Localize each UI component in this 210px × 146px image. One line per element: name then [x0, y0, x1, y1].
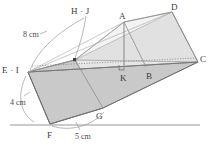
vertex-label-k: K [120, 74, 127, 83]
vertex-label-hj: H · J [71, 7, 90, 16]
leader-5cm [76, 122, 80, 130]
face-bottom-front [28, 62, 198, 124]
vertex-label-b: B [146, 72, 152, 81]
point-HJ-marker [73, 58, 76, 61]
figure-svg [0, 0, 210, 146]
dimension-label-4cm: 4 cm [10, 99, 26, 107]
vertex-label-a: A [119, 12, 126, 21]
dimension-label-5cm: 5 cm [75, 133, 91, 141]
vertex-label-f: F [47, 131, 52, 140]
geometry-diagram: H · J A D C E · I K B G F 8 cm 4 cm 5 cm [0, 0, 210, 146]
leader-4cm [24, 92, 30, 96]
dimension-label-8cm: 8 cm [23, 31, 39, 39]
leader-8cm [40, 31, 47, 34]
vertex-label-ei: E · I [2, 66, 19, 75]
vertex-label-d: D [171, 3, 178, 12]
vertex-label-c: C [200, 55, 206, 64]
vertex-label-g: G [96, 112, 103, 121]
